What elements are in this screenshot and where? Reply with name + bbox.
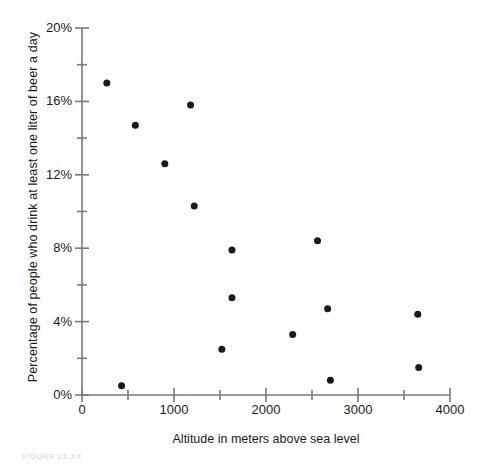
data-point <box>414 311 421 318</box>
y-tick-label: 4% <box>26 314 72 329</box>
x-tick-label: 3000 <box>333 402 383 417</box>
data-point <box>314 237 321 244</box>
data-point <box>161 160 168 167</box>
x-tick-label: 1000 <box>149 402 199 417</box>
data-point <box>118 382 125 389</box>
data-points <box>103 80 422 390</box>
y-axis-label: Percentage of people who drink at least … <box>26 12 40 402</box>
x-axis-label: Altitude in meters above sea level <box>82 432 450 446</box>
y-tick-label: 0% <box>26 387 72 402</box>
data-point <box>132 122 139 129</box>
data-point <box>187 102 194 109</box>
x-tick-label: 4000 <box>425 402 475 417</box>
data-point <box>103 80 110 87</box>
figure-caption: FIGURE 2X.XX <box>22 452 82 461</box>
data-point <box>324 305 331 312</box>
y-tick-label: 20% <box>26 20 72 35</box>
data-point <box>415 364 422 371</box>
x-tick-label: 2000 <box>241 402 291 417</box>
data-point <box>191 202 198 209</box>
data-point <box>289 331 296 338</box>
plot-canvas <box>0 0 489 464</box>
y-tick-label: 8% <box>26 240 72 255</box>
y-tick-label: 16% <box>26 93 72 108</box>
x-tick-label: 0 <box>57 402 107 417</box>
data-point <box>228 294 235 301</box>
data-point <box>327 377 334 384</box>
data-point <box>228 247 235 254</box>
data-point <box>218 346 225 353</box>
axes <box>82 28 450 395</box>
y-tick-label: 12% <box>26 167 72 182</box>
scatter-plot-figure: Percentage of people who drink at least … <box>0 0 489 464</box>
